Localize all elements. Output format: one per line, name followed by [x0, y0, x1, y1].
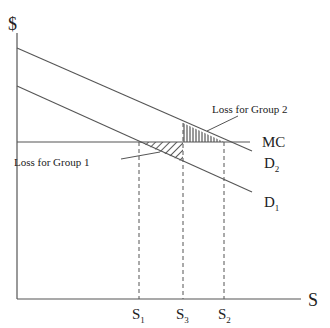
- tick-label-s2: S2: [218, 306, 231, 325]
- mc-label: MC: [262, 134, 285, 150]
- demand-curve-d2: [17, 48, 252, 151]
- annotation-loss-group-2: Loss for Group 2: [212, 103, 287, 115]
- tick-label-s1: S1: [132, 306, 145, 325]
- tick-label-s3: S3: [176, 306, 189, 325]
- annotation-loss-group-1: Loss for Group 1: [14, 156, 89, 168]
- x-axis-label: S: [308, 290, 318, 310]
- d2-label: D2: [264, 155, 279, 174]
- leader-line-group-2: [207, 116, 238, 131]
- loss-area-group-1: [139, 142, 183, 162]
- leader-line-group-1: [121, 152, 160, 159]
- y-axis-label: $: [8, 14, 17, 34]
- d1-label: D1: [264, 194, 279, 213]
- economics-diagram: $ S MC D2 D1 S1 S3 S2 Loss for Group 1 L…: [0, 0, 330, 328]
